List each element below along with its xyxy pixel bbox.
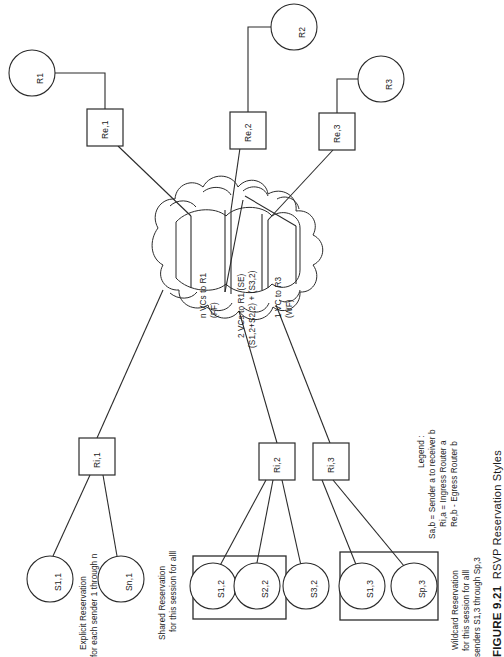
sender-label-s12: S1,2 xyxy=(217,580,226,598)
receiver-node-r2[interactable] xyxy=(271,4,317,50)
sender-node-s32[interactable] xyxy=(283,563,329,609)
sender-label-s32: S3,2 xyxy=(310,580,319,598)
receiver-label-r1: R1 xyxy=(36,73,45,84)
figure-caption-title: RSVP Reservation Styles xyxy=(491,450,503,579)
sender-node-sn1[interactable] xyxy=(98,556,144,602)
link-cloud-ri1 xyxy=(97,290,163,438)
sender-node-s11[interactable] xyxy=(27,556,73,602)
annotation-shared-line1: Shared Reservation xyxy=(159,566,167,640)
sender-node-s13[interactable] xyxy=(339,563,385,609)
vc-label-wf-line2: (WF) xyxy=(286,299,294,318)
sender-label-sp3: Sp,3 xyxy=(418,580,427,598)
sender-node-s22[interactable] xyxy=(234,563,280,609)
receiver-node-r1[interactable] xyxy=(9,50,55,96)
link-ri2-s22 xyxy=(255,480,273,573)
legend-entry-ingress: Ri,a = Ingress Router a xyxy=(440,440,448,527)
ingress-router-label-ri3: Ri,3 xyxy=(327,457,336,473)
link-cloud-ri3 xyxy=(276,305,330,443)
vc-label-se-line2: (S1,2+S2,2) + (S3,2) xyxy=(249,270,257,348)
sender-label-s13: S1,3 xyxy=(366,580,375,598)
annotation-wildcard-line1: Wildcard Reservation xyxy=(452,570,460,650)
annotation-wildcard-line3: senders S1,3 through Sp,3 xyxy=(474,557,482,657)
annotation-explicit-line1: Explicit Reservation xyxy=(80,576,88,650)
figure-caption-number: FIGURE 9.21 xyxy=(491,586,503,657)
link-ri1-sn1 xyxy=(103,475,117,556)
egress-router-label-re1: Re,1 xyxy=(101,120,110,139)
vc-label-ff-line1: n VCs to R1 xyxy=(200,273,208,318)
sender-node-s12[interactable] xyxy=(190,563,236,609)
vc-label-ff-line2: (FF) xyxy=(211,302,219,318)
vc-label-se-line1: 2 VCs to R1 (SE) xyxy=(238,274,246,338)
link-ri3-sp3 xyxy=(333,480,409,572)
link-r3-re3 xyxy=(337,79,358,113)
receiver-label-r2: R2 xyxy=(298,27,307,38)
sender-label-s22: S2,2 xyxy=(261,580,270,598)
legend-entry-sender: Sa,b = Sender a to receiver b xyxy=(429,429,437,539)
annotation-wildcard-line2: for this session for alll xyxy=(463,570,471,651)
sender-label-sn1: Sn,1 xyxy=(125,573,134,591)
link-r1-re1 xyxy=(55,73,105,109)
link-ri2-s12 xyxy=(216,480,266,573)
link-ri1-s11 xyxy=(53,475,90,556)
legend-entry-egress: Re,b - Egress Router b xyxy=(451,441,459,527)
sender-label-s11: S1,1 xyxy=(54,573,63,591)
ingress-router-label-ri2: Ri,2 xyxy=(273,457,282,473)
sender-node-sp3[interactable] xyxy=(391,563,437,609)
ingress-router-label-ri1: Ri,1 xyxy=(93,452,102,468)
annotation-explicit-line2: for each sender 1 through n xyxy=(91,554,99,657)
link-re1-cloud xyxy=(118,146,191,216)
vc-label-wf-line1: 1 VC to R3 xyxy=(275,277,283,318)
legend-title: Legend : xyxy=(418,435,426,468)
receiver-label-r3: R3 xyxy=(385,79,394,90)
egress-router-label-re3: Re,3 xyxy=(333,124,342,143)
figure-caption: FIGURE 9.21 RSVP Reservation Styles xyxy=(492,450,504,657)
egress-router-label-re2: Re,2 xyxy=(244,123,253,142)
receiver-node-r3[interactable] xyxy=(358,56,404,102)
link-r2-re2 xyxy=(248,27,271,112)
annotation-shared-line2: for this session for alll xyxy=(170,551,178,632)
link-re3-cloud xyxy=(268,150,333,220)
